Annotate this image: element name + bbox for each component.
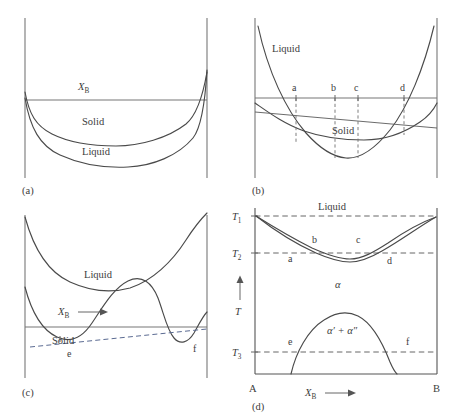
panel-c-point-e: e xyxy=(67,348,72,359)
panel-d-composition-label: XB xyxy=(304,387,316,401)
panel-c-curve-solid xyxy=(25,279,207,343)
panel-c: e f Liquid Solid XB (c) xyxy=(22,213,207,399)
panel-d-point-b: b xyxy=(312,234,317,245)
panel-c-solid-label: Solid xyxy=(52,335,75,346)
panel-b-liquid-label: Liquid xyxy=(272,43,301,54)
panel-d-temp-label-T3: T3 xyxy=(232,347,242,361)
panel-d: a b c d e f Liquid α α′ + α″ T1 T2 T3 T … xyxy=(232,201,440,413)
panel-c-point-f: f xyxy=(193,343,197,354)
panel-d-point-f: f xyxy=(406,336,410,347)
panel-b-point-a: a xyxy=(292,82,297,93)
panel-a-solid-label: Solid xyxy=(82,116,105,127)
panel-a-composition-label: XB xyxy=(77,81,89,95)
panel-c-composition-label: XB xyxy=(57,306,69,320)
panel-b-point-d: d xyxy=(400,82,405,93)
panel-b: a b c d Liquid Solid (b) xyxy=(252,18,437,197)
panel-d-two-phase-label: α′ + α″ xyxy=(327,325,358,336)
panel-b-caption: (b) xyxy=(252,185,265,197)
panel-b-solid-label: Solid xyxy=(332,125,355,136)
panel-c-curve-liquid xyxy=(25,213,207,291)
panel-d-miscibility-gap xyxy=(291,313,397,374)
panel-d-temperature-label: T xyxy=(235,306,242,317)
panel-d-temp-label-T2: T2 xyxy=(232,248,242,262)
panel-d-point-c: c xyxy=(356,234,361,245)
panel-d-temperature-arrow xyxy=(237,276,244,301)
panel-d-point-d: d xyxy=(387,255,392,266)
panel-d-alpha-label: α xyxy=(335,279,341,290)
panel-d-solidus xyxy=(256,216,436,262)
panel-a-liquid-label: Liquid xyxy=(82,146,111,157)
panel-b-point-c: c xyxy=(354,82,359,93)
panel-d-left-endmember: A xyxy=(249,383,257,394)
figure-svg: XB Solid Liquid (a) a b c d Liquid Solid… xyxy=(0,0,460,418)
panel-c-composition-arrow xyxy=(78,308,108,315)
panel-c-caption: (c) xyxy=(22,387,34,399)
panel-a-curve-liquid xyxy=(25,70,207,167)
panel-d-right-endmember: B xyxy=(433,383,440,394)
panel-d-point-a: a xyxy=(288,253,293,264)
panel-d-temp-label-T1: T1 xyxy=(232,211,242,225)
panel-c-liquid-label: Liquid xyxy=(84,269,113,280)
panel-a-caption: (a) xyxy=(22,185,34,197)
panel-d-liquid-label: Liquid xyxy=(318,201,347,212)
panel-a-curve-solid xyxy=(25,72,207,146)
panel-b-point-b: b xyxy=(331,82,336,93)
panel-d-composition-arrow xyxy=(325,389,356,396)
panel-d-point-e: e xyxy=(288,336,293,347)
panel-d-caption: (d) xyxy=(252,401,265,413)
figure-container: XB Solid Liquid (a) a b c d Liquid Solid… xyxy=(0,0,460,418)
panel-a: XB Solid Liquid (a) xyxy=(22,18,207,197)
